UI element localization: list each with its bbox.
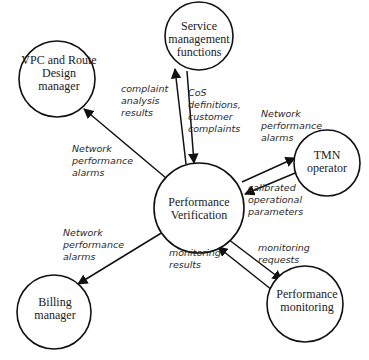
svg-text:complaints: complaints bbox=[188, 123, 240, 134]
node-tmn-operator: TMN operator bbox=[294, 130, 360, 196]
svg-text:operational: operational bbox=[248, 194, 302, 205]
label-monitoring-results: monitoring results bbox=[169, 247, 221, 270]
svg-text:Design: Design bbox=[42, 66, 76, 80]
svg-text:definitions,: definitions, bbox=[188, 99, 241, 110]
svg-text:results: results bbox=[121, 107, 153, 118]
svg-text:parameters: parameters bbox=[247, 206, 303, 217]
svg-text:monitoring: monitoring bbox=[169, 247, 221, 258]
svg-text:alarms: alarms bbox=[72, 167, 104, 178]
svg-text:VPC and Route: VPC and Route bbox=[21, 53, 96, 67]
svg-text:TMN: TMN bbox=[314, 148, 341, 162]
svg-text:Network: Network bbox=[72, 143, 112, 154]
svg-text:calibrated: calibrated bbox=[248, 182, 297, 193]
svg-text:manager: manager bbox=[38, 79, 79, 93]
svg-text:manager: manager bbox=[34, 308, 75, 322]
data-flow-diagram: Service management functions VPC and Rou… bbox=[0, 0, 369, 360]
svg-text:monitoring: monitoring bbox=[280, 300, 333, 314]
edge-pv-to-tmn bbox=[242, 158, 295, 182]
node-performance-verification: Performance Verification bbox=[154, 163, 244, 253]
svg-text:analysis: analysis bbox=[121, 95, 160, 106]
svg-text:requests: requests bbox=[258, 254, 299, 265]
label-monitoring-requests: monitoring requests bbox=[258, 242, 310, 265]
svg-text:performance: performance bbox=[260, 120, 322, 131]
label-network-alarms-vpc: Network performance alarms bbox=[71, 143, 133, 178]
node-billing-manager: Billing manager bbox=[17, 275, 91, 349]
label-cos-definitions-customer-complaints: CoS definitions, customer complaints bbox=[188, 87, 241, 134]
svg-text:Performance: Performance bbox=[276, 287, 337, 301]
svg-text:operator: operator bbox=[307, 161, 347, 175]
edge-pv-to-smf bbox=[175, 69, 186, 164]
node-service-management-functions: Service management functions bbox=[165, 2, 233, 70]
label-network-alarms-billing: Network performance alarms bbox=[62, 227, 124, 262]
svg-text:functions: functions bbox=[177, 45, 222, 59]
svg-text:alarms: alarms bbox=[261, 132, 293, 143]
node-performance-monitoring: Performance monitoring bbox=[267, 266, 343, 342]
svg-text:Verification: Verification bbox=[171, 208, 228, 222]
svg-text:performance: performance bbox=[62, 239, 124, 250]
svg-text:monitoring: monitoring bbox=[258, 242, 310, 253]
svg-text:complaint: complaint bbox=[121, 83, 169, 94]
svg-text:performance: performance bbox=[71, 155, 133, 166]
svg-text:alarms: alarms bbox=[63, 251, 95, 262]
svg-text:customer: customer bbox=[188, 111, 234, 122]
svg-text:management: management bbox=[168, 32, 230, 46]
label-calibrated-operational-parameters: calibrated operational parameters bbox=[247, 182, 303, 217]
label-complaint-analysis-results: complaint analysis results bbox=[121, 83, 169, 118]
svg-text:CoS: CoS bbox=[188, 87, 206, 98]
svg-text:Network: Network bbox=[63, 227, 103, 238]
svg-text:Billing: Billing bbox=[38, 295, 71, 309]
svg-text:Network: Network bbox=[261, 108, 301, 119]
svg-text:Service: Service bbox=[181, 19, 217, 33]
svg-text:results: results bbox=[169, 259, 201, 270]
node-vpc-route-design-manager: VPC and Route Design manager bbox=[19, 41, 97, 117]
svg-text:Performance: Performance bbox=[168, 195, 229, 209]
